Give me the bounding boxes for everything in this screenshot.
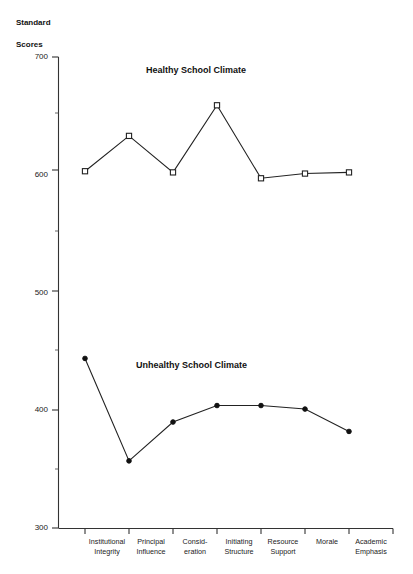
x-axis-ticks <box>85 529 393 535</box>
data-point-marker <box>171 420 176 425</box>
plot-area <box>0 0 413 574</box>
series-line <box>85 358 349 460</box>
data-point-marker <box>127 459 132 464</box>
series-1 <box>82 103 351 181</box>
data-point-marker <box>303 407 308 412</box>
data-point-marker <box>126 133 131 138</box>
data-point-marker <box>259 403 264 408</box>
y-axis-major-ticks <box>52 57 59 528</box>
series-label-unhealthy: Unhealthy School Climate <box>136 360 247 370</box>
series-group <box>82 103 351 464</box>
x-axis-category-label: Academic Emphasis <box>339 537 403 557</box>
series-2 <box>83 356 352 463</box>
y-axis-tick-label: 300 <box>18 523 48 532</box>
data-point-marker <box>215 403 220 408</box>
series-label-healthy: Healthy School Climate <box>146 65 246 75</box>
data-point-marker <box>83 356 88 361</box>
chart-container: Standard Scores <box>0 0 413 574</box>
data-point-marker <box>346 170 351 175</box>
y-axis-tick-label: 700 <box>18 52 48 61</box>
data-point-marker <box>214 103 219 108</box>
data-point-marker <box>82 169 87 174</box>
y-axis-tick-label: 500 <box>18 288 48 297</box>
data-point-marker <box>347 429 352 434</box>
series-line <box>85 105 349 178</box>
y-axis-tick-label: 600 <box>18 170 48 179</box>
data-point-marker <box>302 171 307 176</box>
data-point-marker <box>170 170 175 175</box>
data-point-marker <box>258 176 263 181</box>
y-axis-tick-label: 400 <box>18 405 48 414</box>
